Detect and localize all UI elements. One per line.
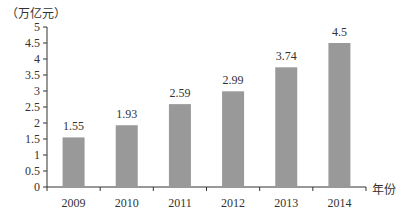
y-tick-label: 0	[34, 180, 40, 194]
x-tick-label: 2012	[221, 196, 245, 210]
y-tick-label: 3.5	[25, 68, 40, 82]
plot-area: 00.511.522.533.544.551.5520091.9320102.5…	[0, 0, 407, 218]
y-tick-label: 2	[34, 116, 40, 130]
y-tick-label: 2.5	[25, 100, 40, 114]
x-axis-name-label: 年份	[372, 180, 396, 198]
data-label: 1.93	[116, 107, 137, 121]
bar-2012	[222, 91, 244, 187]
bar-2010	[116, 125, 138, 187]
y-tick-label: 4.5	[25, 36, 40, 50]
bar-chart: （万亿元） 年份 00.511.522.533.544.551.5520091.…	[0, 0, 407, 218]
data-label: 4.5	[332, 25, 347, 39]
bar-2014	[328, 43, 350, 187]
y-tick-label: 0.5	[25, 164, 40, 178]
y-tick-label: 4	[34, 52, 40, 66]
y-tick-label: 1	[34, 148, 40, 162]
y-tick-label: 5	[34, 20, 40, 34]
data-label: 2.99	[223, 73, 244, 87]
data-label: 2.59	[169, 86, 190, 100]
y-axis-unit-label: （万亿元）	[6, 4, 66, 22]
bar-2013	[275, 67, 297, 187]
x-tick-label: 2010	[115, 196, 139, 210]
x-tick-label: 2013	[274, 196, 298, 210]
y-tick-label: 1.5	[25, 132, 40, 146]
x-tick-label: 2014	[327, 196, 351, 210]
x-tick-label: 2011	[168, 196, 192, 210]
bar-2011	[169, 104, 191, 187]
data-label: 3.74	[276, 49, 297, 63]
x-tick-label: 2009	[62, 196, 86, 210]
y-tick-label: 3	[34, 84, 40, 98]
data-label: 1.55	[63, 119, 84, 133]
bar-2009	[63, 137, 85, 187]
